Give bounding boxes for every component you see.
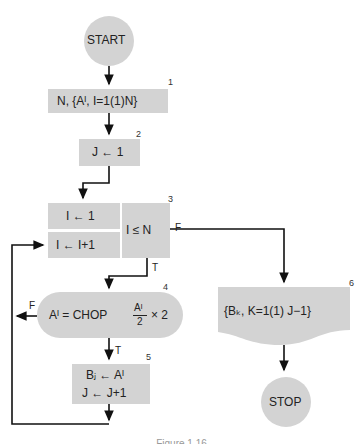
start-label: START — [87, 33, 125, 47]
node-number-1: 1 — [168, 77, 173, 87]
false-label-3: F — [175, 222, 181, 233]
false-label-4: F — [29, 300, 35, 311]
flowchart: START 1 N, {Aᴵ, I=1(1)N} 2 J ← 1 3 I ← 1… — [0, 0, 363, 444]
input-label-1: N, {Aᴵ, I=1(1)N} — [57, 94, 137, 108]
process-label-2: J ← 1 — [92, 145, 123, 159]
output-label-6: {Bₖ, K=1(1) J−1} — [224, 304, 311, 318]
figure-caption: Figure 1.16 — [0, 438, 363, 444]
node-number-3: 3 — [168, 194, 173, 204]
true-label-4: T — [115, 345, 121, 356]
node-number-5: 5 — [146, 352, 151, 362]
stop-label: STOP — [269, 395, 301, 409]
decision-label-left: Aᴵ = CHOP — [49, 308, 107, 322]
true-label-3: T — [152, 262, 158, 273]
node-number-2: 2 — [136, 129, 141, 139]
node-number-6: 6 — [349, 278, 354, 288]
fraction-numerator: Aᴵ — [134, 302, 142, 313]
test-label-3: I ≤ N — [126, 223, 151, 237]
node-number-4: 4 — [163, 282, 168, 292]
increment-label: I ← I+1 — [56, 238, 95, 252]
process-label-5a: Bⱼ ← Aᴵ — [86, 368, 124, 382]
init-label: I ← 1 — [66, 209, 95, 223]
flowchart-edges — [0, 0, 363, 444]
process-label-5b: J ← J+1 — [82, 386, 126, 400]
fraction-denominator: 2 — [137, 316, 143, 327]
decision-label-right: × 2 — [151, 308, 168, 322]
